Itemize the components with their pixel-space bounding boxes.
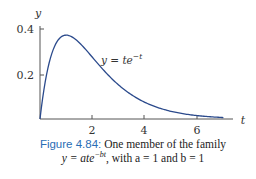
figure-caption-line1: Figure 4.84: One member of the family bbox=[5, 138, 256, 151]
figure-number: Figure 4.84: bbox=[40, 138, 101, 150]
y-tick-label-02: 0.2 bbox=[17, 69, 35, 82]
x-tick-label-6: 6 bbox=[194, 124, 201, 136]
caption-formula-exponent: −bt bbox=[94, 150, 106, 159]
y-axis-label: y bbox=[34, 7, 42, 20]
caption-formula: y = ate bbox=[62, 152, 95, 164]
curve-annotation: y = te−t bbox=[100, 52, 143, 66]
x-axis-label: t bbox=[241, 114, 246, 127]
x-tick-label-2: 2 bbox=[89, 124, 96, 136]
curve-te-minus-t bbox=[40, 35, 223, 119]
caption-params: , with a = 1 and b = 1 bbox=[106, 152, 204, 164]
chart-plot: y 0.4 0.2 2 4 6 t y = te−t bbox=[0, 0, 256, 136]
x-tick-label-4: 4 bbox=[141, 124, 148, 136]
caption-text: One member of the family bbox=[101, 138, 226, 150]
figure-caption-line2: y = ate−bt, with a = 1 and b = 1 bbox=[5, 152, 256, 165]
y-tick-label-04: 0.4 bbox=[17, 23, 35, 36]
